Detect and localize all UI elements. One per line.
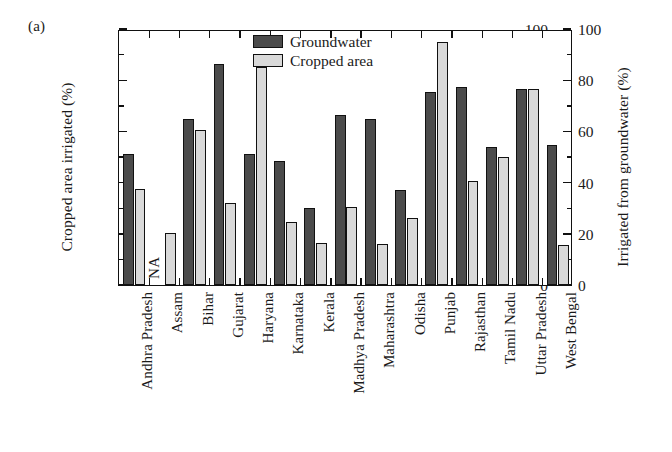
category-label-uttar-pradesh: Uttar Pradesh [533,292,550,375]
tick-category-top-12 [482,31,483,38]
tick-category-bot-7 [330,278,331,285]
tick-category-top-4 [239,31,240,38]
category-label-assam: Assam [169,292,186,333]
tick-category-bot-12 [482,278,483,285]
category-label-andhra-pradesh: Andhra Pradesh [139,292,156,390]
bar-groundwater-uttar-pradesh [516,89,527,285]
tick-category-bot-4 [239,278,240,285]
bar-groundwater-madhya-pradesh [335,115,346,285]
bar-groundwater-kerala [304,208,315,285]
tick-major-right-40 [563,182,571,183]
tick-label-right-0: 0 [578,278,618,294]
bar-cropped-area-andhra-pradesh [135,189,146,285]
category-label-maharashtra: Maharashtra [381,292,398,368]
tick-category-bot-6 [300,278,301,285]
figure-panel-a: (a) Cropped area irrigated (%) Irrigated… [0,0,672,452]
tick-category-bot-1 [149,278,150,285]
panel-label: (a) [28,18,45,35]
bar-groundwater-karnataka [274,161,285,285]
tick-category-bot-14 [542,278,543,285]
tick-category-top-9 [391,31,392,38]
tick-minor-left-70 [119,105,124,106]
tick-category-top-3 [209,31,210,38]
tick-major-right-20 [563,233,571,234]
category-label-rajasthan: Rajasthan [472,292,489,352]
legend-label-cropped-area: Cropped area [290,53,373,69]
category-label-gujarat: Gujarat [230,292,247,338]
bar-groundwater-bihar [183,119,194,285]
na-annotation-assam: NA [146,257,163,279]
tick-label-right-40: 40 [578,176,618,192]
bar-groundwater-odisha [395,190,406,285]
tick-category-top-10 [421,31,422,38]
category-label-odisha: Odisha [412,292,429,335]
tick-minor-left-90 [119,54,124,55]
bar-cropped-area-karnataka [286,222,297,285]
tick-major-left-60 [119,131,127,132]
bar-cropped-area-assam [165,233,176,285]
bar-cropped-area-haryana [256,67,267,285]
category-label-madhya-pradesh: Madhya Pradesh [351,292,368,394]
category-label-west-bengal: West Bengal [563,292,580,369]
bar-cropped-area-rajasthan [468,181,479,285]
legend-label-groundwater: Groundwater [290,34,372,50]
legend-item-groundwater: Groundwater [253,34,373,50]
tick-category-bot-2 [179,278,180,285]
tick-minor-right-30 [567,208,572,209]
bar-cropped-area-odisha [407,218,418,285]
tick-label-right-100: 100 [578,22,618,38]
tick-major-right-80 [563,80,571,81]
tick-major-right-60 [563,131,571,132]
tick-label-right-20: 20 [578,227,618,243]
bar-cropped-area-tamil-nadu [498,157,509,285]
bar-groundwater-maharashtra [365,119,376,285]
tick-category-bot-8 [360,278,361,285]
tick-category-bot-10 [421,278,422,285]
bar-cropped-area-bihar [195,130,206,285]
category-label-karnataka: Karnataka [290,292,307,355]
bar-groundwater-punjab [425,92,436,285]
category-label-kerala: Kerala [321,292,338,333]
tick-category-bot-5 [270,278,271,285]
tick-label-right-80: 80 [578,73,618,89]
tick-category-top-1 [149,31,150,38]
bar-cropped-area-west-bengal [558,245,569,285]
tick-minor-right-70 [567,105,572,106]
bar-cropped-area-maharashtra [377,244,388,285]
tick-minor-right-50 [567,156,572,157]
tick-category-top-11 [451,31,452,38]
category-label-bihar: Bihar [200,292,217,326]
tick-category-top-13 [512,31,513,38]
bar-cropped-area-gujarat [225,203,236,285]
bar-cropped-area-uttar-pradesh [528,89,539,285]
tick-minor-right-90 [567,54,572,55]
bar-groundwater-haryana [244,154,255,285]
bar-cropped-area-madhya-pradesh [346,207,357,285]
tick-label-right-60: 60 [578,124,618,140]
bar-groundwater-gujarat [214,64,225,285]
category-label-haryana: Haryana [260,292,277,344]
legend-swatch-groundwater [253,35,283,48]
left-axis-title: Cropped area irrigated (%) [58,37,76,297]
bar-cropped-area-kerala [316,243,327,285]
tick-category-top-14 [542,31,543,38]
tick-major-left-100 [119,28,127,29]
bar-groundwater-tamil-nadu [486,147,497,285]
category-label-punjab: Punjab [442,292,459,334]
tick-category-bot-11 [451,278,452,285]
legend-swatch-cropped-area [253,54,283,67]
tick-major-left-80 [119,80,127,81]
bar-cropped-area-punjab [437,42,448,285]
tick-category-bot-9 [391,278,392,285]
tick-category-top-2 [179,31,180,38]
bar-groundwater-rajasthan [456,87,467,285]
bar-groundwater-andhra-pradesh [123,154,134,285]
legend: GroundwaterCropped area [253,34,373,68]
tick-category-bot-3 [209,278,210,285]
tick-major-right-100 [563,28,571,29]
legend-item-cropped-area: Cropped area [253,53,373,69]
category-label-tamil-nadu: Tamil Nadu [502,292,519,364]
bar-groundwater-west-bengal [547,145,558,285]
tick-category-bot-13 [512,278,513,285]
